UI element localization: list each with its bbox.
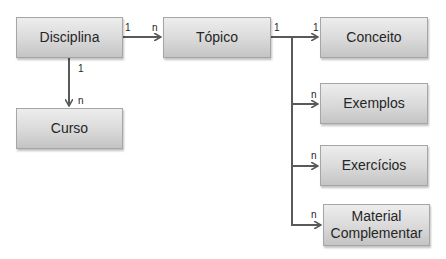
node-curso-label: Curso (51, 120, 88, 137)
card-topico-exemplos-to: n (311, 90, 317, 100)
entity-relationship-diagram: Disciplina Curso Tópico Conceito Exemplo… (0, 0, 446, 259)
node-material-complementar: Material Complementar (323, 204, 430, 246)
node-topico: Tópico (163, 17, 271, 58)
node-exemplos: Exemplos (320, 83, 428, 124)
node-curso: Curso (16, 108, 123, 149)
card-topico-conceito-to: 1 (313, 23, 319, 33)
node-topico-label: Tópico (196, 29, 238, 46)
card-disciplina-topico-to: n (152, 23, 158, 33)
card-disciplina-curso-to: n (78, 96, 84, 106)
node-conceito: Conceito (320, 17, 428, 58)
card-topico-material-to: n (311, 210, 317, 220)
node-material-label-line2: Complementar (331, 225, 423, 242)
card-topico-exercicios-to: n (311, 151, 317, 161)
node-conceito-label: Conceito (346, 29, 401, 46)
node-material-label-line1: Material (352, 208, 402, 225)
node-disciplina: Disciplina (16, 17, 123, 58)
card-topico-conceito-from: 1 (274, 23, 280, 33)
card-disciplina-topico-from: 1 (125, 23, 131, 33)
card-disciplina-curso-from: 1 (78, 64, 84, 74)
node-disciplina-label: Disciplina (40, 29, 100, 46)
node-exemplos-label: Exemplos (343, 95, 404, 112)
node-exercicios: Exercícios (320, 145, 428, 186)
node-exercicios-label: Exercícios (342, 157, 407, 174)
